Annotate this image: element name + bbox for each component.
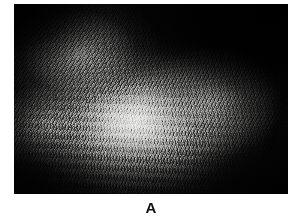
panel-label: A	[0, 199, 302, 217]
figure-panel: A	[0, 0, 302, 223]
photo-tone-overlay	[14, 4, 288, 194]
panel-image	[14, 4, 288, 194]
